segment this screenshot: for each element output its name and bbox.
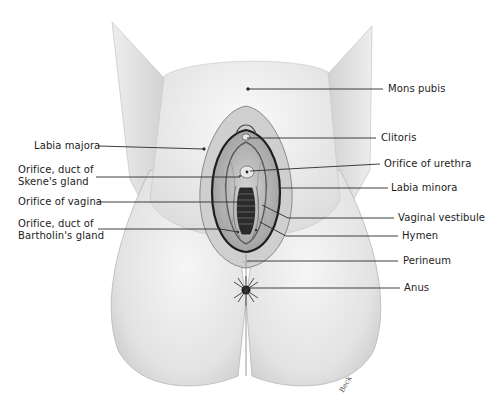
label-hymen: Hymen [402, 230, 438, 242]
anatomy-figure: Mons pubis Clitoris Orifice of urethra L… [0, 0, 496, 412]
label-line-2: Bartholin's gland [18, 230, 104, 242]
label-line-1: Orifice, duct of [18, 218, 104, 230]
label-anus: Anus [404, 282, 429, 294]
label-orifice-duct-bartholins-gland: Orifice, duct of Bartholin's gland [18, 218, 104, 242]
label-perineum: Perineum [403, 255, 451, 267]
vaginal-orifice [237, 188, 255, 234]
label-vaginal-vestibule: Vaginal vestibule [398, 212, 485, 224]
label-labia-majora: Labia majora [34, 140, 100, 152]
label-labia-minora: Labia minora [391, 182, 458, 194]
label-mons-pubis: Mons pubis [388, 83, 446, 95]
clitoris-glans [242, 134, 250, 140]
label-orifice-urethra: Orifice of urethra [384, 158, 471, 170]
label-orifice-duct-skenes-gland: Orifice, duct of Skene's gland [18, 164, 94, 188]
label-line-1: Orifice, duct of [18, 164, 94, 176]
label-orifice-vagina: Orifice of vagina [18, 196, 102, 208]
label-clitoris: Clitoris [381, 132, 416, 144]
label-line-2: Skene's gland [18, 176, 94, 188]
